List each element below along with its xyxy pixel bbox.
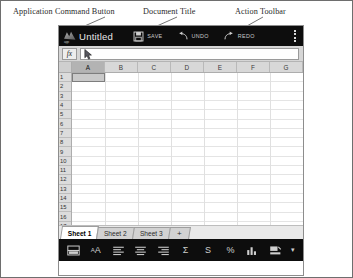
formatting-bar: AAΣS%▾ [59, 239, 303, 261]
row-header-1[interactable]: 1 [59, 73, 71, 82]
select-all-corner[interactable] [59, 62, 72, 72]
row-header-10[interactable]: 10 [59, 157, 71, 166]
align-center-icon[interactable] [132, 243, 149, 258]
fill-color-icon [269, 245, 282, 256]
more-options-icon[interactable]: ▾ [289, 243, 297, 258]
save-label: SAVE [147, 33, 162, 39]
text-style-icon[interactable]: AA [87, 243, 104, 258]
fill-color-icon[interactable] [267, 243, 284, 258]
annotation-action-toolbar: Action Toolbar [235, 7, 286, 16]
undo-label: UNDO [192, 33, 209, 39]
borders-icon[interactable] [65, 243, 82, 258]
column-header-f[interactable]: F [237, 62, 270, 72]
row-header-11[interactable]: 11 [59, 166, 71, 175]
row-header-7[interactable]: 7 [59, 129, 71, 138]
formula-bar: fx [59, 46, 303, 62]
document-title[interactable]: Untitled [79, 31, 113, 42]
column-header-d[interactable]: D [171, 62, 204, 72]
grid-column-line [138, 73, 139, 225]
plus-icon: + [177, 229, 182, 238]
row-header-3[interactable]: 3 [59, 92, 71, 101]
align-center-icon [134, 245, 147, 256]
grid-column-line [171, 73, 172, 225]
undo-arrow-icon [177, 31, 189, 41]
column-header-b[interactable]: B [105, 62, 138, 72]
cell-area[interactable] [72, 73, 303, 225]
row-header-8[interactable]: 8 [59, 138, 71, 147]
redo-arrow-icon [223, 31, 235, 41]
row-header-13[interactable]: 13 [59, 185, 71, 194]
column-header-g[interactable]: G [270, 62, 303, 72]
redo-button[interactable]: REDO [223, 31, 255, 41]
row-header-16[interactable]: 16 [59, 212, 71, 221]
currency-icon[interactable]: S [199, 243, 216, 258]
app-logo-icon[interactable]: app [63, 30, 76, 43]
chart-icon[interactable] [244, 243, 261, 258]
grid-column-line [237, 73, 238, 225]
grid-column-line [270, 73, 271, 225]
annotation-document-title: Document Title [143, 7, 196, 16]
add-worksheet-button[interactable]: + [168, 227, 191, 239]
column-headers: ABCDEFG [59, 62, 303, 73]
percent-icon[interactable]: % [222, 243, 239, 258]
align-right-icon [157, 245, 170, 256]
formula-input[interactable] [80, 48, 299, 60]
align-left-icon [112, 245, 125, 256]
sheet-tab-bar: Sheet 1Sheet 2Sheet 3+ [59, 225, 303, 239]
figure-page: Application Command Button Document Titl… [0, 0, 353, 278]
row-headers: 1234567891011121314151617 [59, 73, 72, 225]
align-left-icon[interactable] [110, 243, 127, 258]
mouse-cursor-icon [84, 49, 93, 60]
column-header-e[interactable]: E [204, 62, 237, 72]
sheet-tab-3[interactable]: Sheet 3 [132, 227, 171, 239]
row-header-4[interactable]: 4 [59, 101, 71, 110]
insert-function-button[interactable]: fx [62, 48, 77, 60]
row-header-12[interactable]: 12 [59, 175, 71, 184]
sheet-tab-1[interactable]: Sheet 1 [60, 226, 100, 239]
action-toolbar: app Untitled SAVE UNDO [59, 26, 303, 46]
worksheet-grid[interactable]: ABCDEFG 1234567891011121314151617 [59, 62, 303, 225]
column-header-c[interactable]: C [138, 62, 171, 72]
annotation-app-command-button: Application Command Button [13, 7, 115, 16]
cell-pointer[interactable] [72, 73, 105, 82]
kebab-menu-icon[interactable] [293, 30, 296, 42]
row-header-6[interactable]: 6 [59, 119, 71, 128]
save-button[interactable]: SAVE [133, 31, 162, 42]
row-header-2[interactable]: 2 [59, 82, 71, 91]
chart-icon [246, 245, 259, 256]
row-header-9[interactable]: 9 [59, 147, 71, 156]
row-header-17[interactable]: 17 [59, 222, 71, 225]
app-logo-caption: app [64, 40, 69, 44]
align-right-icon[interactable] [155, 243, 172, 258]
borders-icon [67, 245, 80, 256]
sheet-tab-2[interactable]: Sheet 2 [97, 227, 136, 239]
sheet-tab-label: Sheet 3 [140, 230, 163, 237]
undo-button[interactable]: UNDO [177, 31, 209, 41]
sheet-tab-label: Sheet 1 [68, 230, 91, 237]
spreadsheet-app-window: app Untitled SAVE UNDO [58, 25, 304, 276]
save-floppy-icon [133, 31, 144, 42]
grid-column-line [105, 73, 106, 225]
sheet-tab-label: Sheet 2 [104, 230, 127, 237]
row-header-5[interactable]: 5 [59, 110, 71, 119]
redo-label: REDO [238, 33, 255, 39]
grid-column-line [204, 73, 205, 225]
row-header-15[interactable]: 15 [59, 203, 71, 212]
column-header-a[interactable]: A [72, 62, 105, 72]
row-header-14[interactable]: 14 [59, 194, 71, 203]
sum-icon[interactable]: Σ [177, 243, 194, 258]
